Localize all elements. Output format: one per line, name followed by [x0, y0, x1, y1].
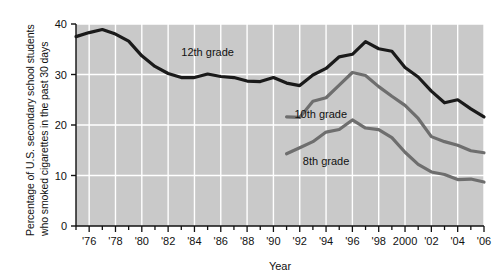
x-tick-label: '92 — [293, 235, 307, 247]
x-axis-title: Year — [269, 260, 292, 272]
chart-figure: Percentage of U.S. secondary school stud… — [0, 0, 504, 278]
x-tick-label: '78 — [108, 235, 122, 247]
x-tick-label: '82 — [161, 235, 175, 247]
x-axis-ticks: '76'78'80'82'84'86'88'90'92'94'96'982000… — [76, 226, 491, 247]
series-label: 8th grade — [303, 155, 349, 167]
x-tick-label: '88 — [240, 235, 254, 247]
x-tick-label: '80 — [135, 235, 149, 247]
x-tick-label: '96 — [345, 235, 359, 247]
x-tick-label: '98 — [372, 235, 386, 247]
y-tick-label: 0 — [61, 220, 67, 232]
x-tick-label: '04 — [451, 235, 465, 247]
chart-svg: 010203040 '76'78'80'82'84'86'88'90'92'94… — [0, 0, 504, 278]
x-tick-label: '84 — [187, 235, 201, 247]
x-tick-label: 2000 — [393, 235, 417, 247]
x-tick-label: '06 — [477, 235, 491, 247]
x-tick-label: '86 — [214, 235, 228, 247]
y-axis-title-line-2: who smoked cigarettes in the past 30 day… — [38, 42, 50, 236]
x-tick-label: '90 — [266, 235, 280, 247]
series-label: 10th grade — [294, 108, 347, 120]
x-tick-label: '02 — [424, 235, 438, 247]
series-label: 12th grade — [181, 46, 234, 58]
x-tick-label: '76 — [82, 235, 96, 247]
x-tick-label: '94 — [319, 235, 333, 247]
y-axis-title-line-1: Percentage of U.S. secondary school stud… — [24, 24, 36, 236]
y-axis-title: Percentage of U.S. secondary school stud… — [0, 0, 60, 240]
